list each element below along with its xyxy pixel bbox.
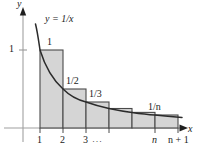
curve-equation-label: y = 1/x [45, 14, 73, 24]
x-tick-label-1: 1 [37, 135, 42, 145]
y-axis-label: y [17, 0, 21, 9]
x-tick-label-n: n [152, 135, 157, 145]
figure-container: y x 1 y = 1/x 1 1/2 1/3 1/n 1 2 3 ··· n … [0, 0, 197, 155]
bar-label-3: 1/3 [89, 89, 102, 99]
bar-2 [63, 89, 86, 128]
y-axis-tick-label-1: 1 [9, 44, 14, 54]
y-axis [19, 7, 27, 142]
x-axis-ticks [40, 128, 178, 133]
x-axis-ellipsis: ··· [92, 137, 103, 146]
x-axis-label: x [188, 124, 192, 134]
x-tick-label-2: 2 [60, 135, 65, 145]
x-tick-label-n-plus-1: n + 1 [168, 135, 189, 145]
bar-label-1: 1 [47, 37, 52, 47]
x-tick-label-3: 3 [83, 135, 88, 145]
riemann-sum-figure [0, 0, 197, 155]
riemann-rectangles [40, 50, 178, 128]
bar-1 [40, 50, 63, 128]
bar-label-2: 1/2 [66, 76, 79, 86]
x-axis-arrowhead [180, 125, 189, 132]
bar-label-n: 1/n [148, 102, 161, 112]
